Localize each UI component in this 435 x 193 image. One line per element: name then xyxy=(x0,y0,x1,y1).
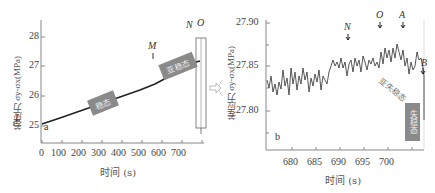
y-tick-27.85: 27.85 xyxy=(236,59,259,70)
x-tick-200: 200 xyxy=(71,147,86,158)
x-tick-680: 680 xyxy=(283,156,298,167)
point-label-O: O xyxy=(197,17,204,28)
x-tick-685: 685 xyxy=(307,156,322,167)
x-tick-100: 100 xyxy=(51,147,66,158)
point-label-N: N xyxy=(344,21,351,32)
y-tick-26: 26 xyxy=(29,89,39,100)
y-tick-25: 25 xyxy=(29,119,39,130)
x-tick-400: 400 xyxy=(111,147,126,158)
x-tick-700: 700 xyxy=(171,147,186,158)
y-tick-28: 28 xyxy=(29,30,39,41)
x-tick-690: 690 xyxy=(331,156,346,167)
y-tick-27: 27 xyxy=(29,59,39,70)
y-tick-27.80: 27.80 xyxy=(236,104,259,115)
point-label-N: N xyxy=(186,19,193,30)
x-axis-label-b: 时间 (s) xyxy=(325,172,361,187)
point-label-B: B xyxy=(421,57,427,68)
point-label-O: O xyxy=(376,9,383,20)
x-axis-label-a: 时间 (s) xyxy=(100,164,136,179)
x-tick-300: 300 xyxy=(91,147,106,158)
x-tick-700: 700 xyxy=(379,156,394,167)
y-axis-label-b: 差应力 σy-σx(MPa) xyxy=(224,30,237,120)
point-label-M: M xyxy=(148,40,156,51)
panel-tag-a: a xyxy=(44,121,48,132)
x-tick-600: 600 xyxy=(151,147,166,158)
region-label-instability: 失稳态 xyxy=(405,103,420,141)
panel-tag-b: b xyxy=(275,131,280,142)
point-label-L: L xyxy=(15,112,21,123)
y-tick-27.90: 27.90 xyxy=(236,16,259,27)
x-tick-0: 0 xyxy=(39,147,44,158)
point-label-A: A xyxy=(399,9,405,20)
x-tick-500: 500 xyxy=(131,147,146,158)
x-tick-695: 695 xyxy=(355,156,370,167)
